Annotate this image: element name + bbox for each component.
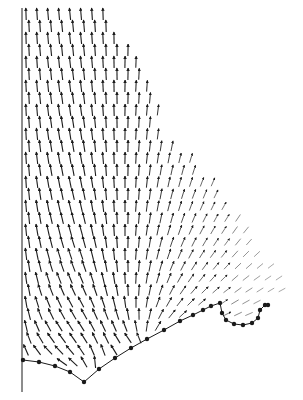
velocity-arrow [116, 260, 117, 272]
velocity-arrow [146, 200, 147, 211]
velocity-arrow [58, 80, 59, 92]
velocity-arrow [137, 333, 141, 344]
velocity-arrow [181, 213, 184, 223]
velocity-arrow [157, 153, 159, 164]
velocity-arrow [50, 140, 52, 152]
velocity-arrow [47, 200, 49, 212]
velocity-arrow [89, 321, 95, 332]
velocity-arrow [147, 128, 148, 139]
velocity-arrow [72, 188, 75, 200]
boundary-point [224, 318, 228, 322]
velocity-arrow [50, 68, 51, 80]
velocity-arrow [59, 309, 65, 319]
velocity-arrow [200, 250, 205, 258]
wall-boundary-curve [23, 303, 268, 382]
velocity-arrow [203, 238, 208, 246]
velocity-arrow [28, 236, 30, 248]
velocity-arrow [114, 224, 115, 236]
velocity-arrow [222, 226, 227, 233]
velocity-arrow [47, 56, 48, 68]
velocity-arrow [246, 263, 252, 268]
velocity-arrow [106, 164, 107, 176]
velocity-arrow [83, 92, 84, 104]
velocity-arrow [26, 152, 27, 164]
velocity-arrow [81, 357, 87, 367]
velocity-arrow [37, 80, 38, 92]
velocity-arrow [57, 359, 67, 366]
velocity-arrow [235, 239, 240, 246]
velocity-arrow [147, 80, 148, 91]
velocity-arrow [58, 32, 59, 44]
velocity-arrow [149, 309, 151, 320]
velocity-arrow [69, 358, 78, 366]
velocity-arrow [61, 68, 62, 80]
velocity-arrow [94, 212, 96, 224]
boundary-point [232, 322, 236, 326]
velocity-arrow [61, 116, 63, 128]
velocity-arrow [71, 260, 75, 271]
velocity-arrow [157, 129, 158, 140]
velocity-arrow [265, 276, 271, 280]
velocity-arrow [149, 261, 151, 272]
velocity-arrow [37, 56, 38, 68]
velocity-arrow [80, 80, 81, 92]
velocity-arrow [192, 238, 196, 247]
velocity-arrow [236, 215, 241, 222]
velocity-arrow [94, 188, 96, 200]
velocity-arrow [128, 284, 129, 296]
velocity-arrow [79, 273, 84, 284]
velocity-arrow [146, 297, 148, 308]
velocity-arrow [25, 224, 26, 236]
velocity-arrow [117, 212, 118, 224]
velocity-arrow [149, 285, 151, 296]
velocity-arrow [28, 212, 29, 224]
velocity-arrow [29, 140, 30, 152]
velocity-arrow [221, 275, 227, 281]
velocity-arrow [48, 333, 55, 343]
velocity-arrow [78, 321, 84, 331]
velocity-arrow [146, 249, 148, 260]
velocity-arrow [136, 128, 137, 140]
velocity-arrow [82, 285, 87, 296]
velocity-arrow [233, 227, 238, 234]
velocity-arrow [213, 287, 220, 293]
velocity-arrow [224, 239, 229, 246]
velocity-arrow [95, 68, 96, 80]
boundary-point [68, 370, 72, 374]
boundary-point [82, 380, 86, 384]
velocity-arrow [182, 165, 185, 175]
velocity-arrow [26, 128, 27, 140]
velocity-arrow [39, 260, 42, 272]
velocity-arrow [60, 236, 63, 248]
velocity-arrow [60, 285, 65, 296]
velocity-arrow [44, 346, 52, 355]
velocity-arrow [157, 249, 160, 260]
velocity-arrow [103, 104, 104, 116]
velocity-arrow [114, 200, 115, 212]
velocity-arrow [61, 188, 63, 200]
velocity-arrow [69, 8, 70, 20]
velocity-arrow [190, 177, 193, 186]
velocity-arrow [92, 8, 93, 20]
velocity-arrow [47, 224, 50, 236]
boundary-point [191, 313, 195, 317]
velocity-arrow [179, 201, 182, 211]
velocity-arrow [50, 212, 53, 224]
velocity-arrow [47, 104, 48, 116]
velocity-arrow [71, 236, 75, 247]
velocity-arrow [159, 285, 163, 295]
boundary-point [113, 356, 117, 360]
velocity-arrow [243, 251, 249, 257]
boundary-point [241, 323, 245, 327]
velocity-arrow [182, 189, 185, 199]
velocity-arrow [94, 116, 95, 128]
velocity-arrow [203, 190, 207, 199]
velocity-arrow [80, 200, 83, 212]
velocity-arrow [28, 284, 30, 296]
velocity-arrow [222, 202, 226, 210]
velocity-arrow [189, 226, 193, 235]
velocity-arrow [243, 227, 248, 233]
velocity-arrow [192, 214, 196, 223]
velocity-arrow [47, 128, 49, 140]
velocity-arrow [40, 20, 41, 32]
